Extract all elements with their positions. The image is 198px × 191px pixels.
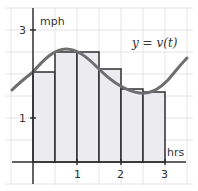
bar-2 bbox=[55, 52, 77, 162]
x-axis-label: hrs bbox=[167, 146, 184, 159]
bar-3 bbox=[77, 52, 99, 162]
bar-1 bbox=[33, 72, 55, 162]
x-tick-1: 1 bbox=[74, 168, 81, 181]
chart: mph hrs y = v(t) 3 1 1 2 3 bbox=[0, 0, 198, 191]
bar-6 bbox=[143, 92, 165, 162]
bar-5 bbox=[121, 89, 143, 162]
y-axis-label: mph bbox=[40, 15, 65, 28]
function-label: y = v(t) bbox=[131, 36, 178, 50]
x-tick-3: 3 bbox=[161, 168, 168, 181]
y-tick-1: 1 bbox=[19, 112, 26, 125]
y-tick-3: 3 bbox=[19, 24, 26, 37]
x-tick-2: 2 bbox=[117, 168, 124, 181]
